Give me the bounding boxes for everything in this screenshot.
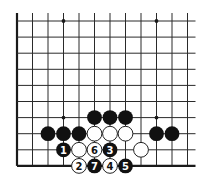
black-stone-move-3: 3 (103, 142, 118, 157)
star-point (62, 19, 66, 23)
black-stone (149, 126, 164, 141)
move-number-label: 1 (60, 145, 67, 156)
black-stone (165, 126, 180, 141)
move-number-label: 7 (91, 161, 98, 172)
white-stone-disc (72, 142, 87, 157)
move-number-label: 2 (76, 161, 83, 172)
move-number-label: 3 (107, 145, 114, 156)
black-stone (56, 126, 71, 141)
white-stone-move-2: 2 (72, 159, 87, 174)
white-stone-move-6: 6 (87, 142, 102, 157)
white-stone-disc (118, 126, 133, 141)
black-stone (41, 126, 56, 141)
move-number-label: 6 (91, 145, 98, 156)
white-stone-disc (103, 126, 118, 141)
black-stone-disc (72, 126, 87, 141)
white-stone-disc (134, 142, 149, 157)
white-stone-move-4: 4 (103, 159, 118, 174)
black-stone (103, 110, 118, 125)
white-stone (118, 126, 133, 141)
star-point (155, 19, 159, 23)
black-stone-disc (103, 110, 118, 125)
white-stone (103, 126, 118, 141)
black-stone-disc (41, 126, 56, 141)
black-stone-disc (118, 110, 133, 125)
black-stone (118, 110, 133, 125)
grid-lines (17, 13, 196, 166)
white-stone (87, 126, 102, 141)
black-stone-disc (56, 126, 71, 141)
black-stone (87, 110, 102, 125)
move-number-label: 5 (122, 161, 129, 172)
black-stone-move-1: 1 (56, 142, 71, 157)
white-stone (134, 142, 149, 157)
black-stone (72, 126, 87, 141)
move-number-label: 4 (107, 161, 114, 172)
black-stone-disc (165, 126, 180, 141)
go-board: 1632745 (0, 0, 209, 187)
black-stone-disc (87, 110, 102, 125)
black-stone-move-7: 7 (87, 159, 102, 174)
star-point (62, 116, 66, 120)
white-stone-disc (87, 126, 102, 141)
black-stone-move-5: 5 (118, 159, 133, 174)
black-stone-disc (149, 126, 164, 141)
star-point (155, 116, 159, 120)
white-stone (72, 142, 87, 157)
